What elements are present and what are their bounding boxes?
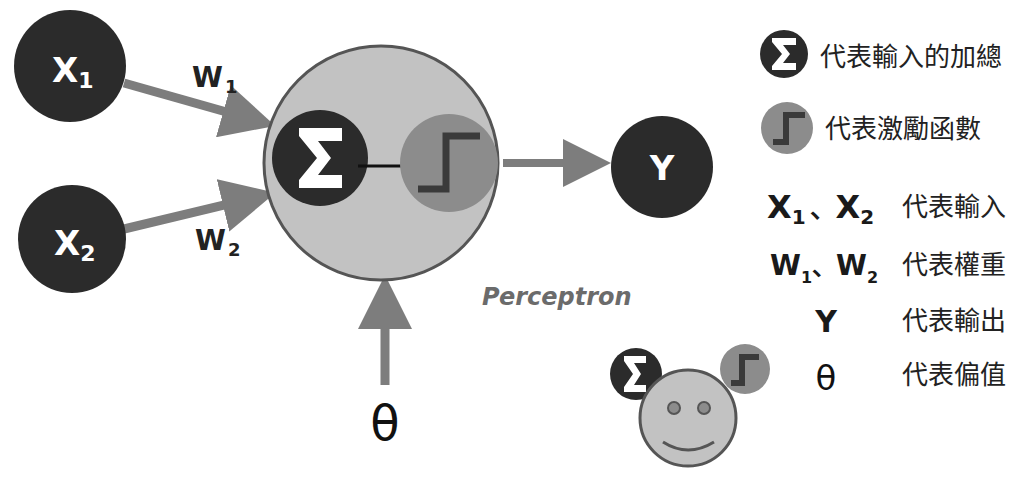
perceptron-caption: Perceptron xyxy=(482,283,632,311)
arrow-x1-to-neuron xyxy=(124,83,258,121)
svg-text:代表輸入: 代表輸入 xyxy=(902,192,1006,222)
svg-text:Y: Y xyxy=(814,304,838,339)
weight-label-w2: W2 xyxy=(195,224,240,260)
input-node-x2: X2 xyxy=(18,185,126,293)
svg-text:W1、W2: W1、W2 xyxy=(770,249,878,287)
legend-item-output: Y 代表輸出 xyxy=(814,304,1006,339)
activation-node xyxy=(400,114,498,212)
svg-text:代表激勵函數: 代表激勵函數 xyxy=(825,114,981,144)
svg-text:代表輸入的加總: 代表輸入的加總 xyxy=(820,42,1002,72)
svg-text:代表輸出: 代表輸出 xyxy=(902,306,1006,336)
legend-item-sum: 代表輸入的加總 xyxy=(760,30,1002,78)
legend-item-bias: θ 代表偏值 xyxy=(816,358,1006,398)
sum-node xyxy=(272,110,368,206)
svg-text:X1、X2: X1、X2 xyxy=(767,188,874,229)
svg-text:代表權重: 代表權重 xyxy=(902,250,1006,280)
output-node-y: Y xyxy=(611,116,713,218)
perceptron-diagram: X1 X2 W1 W2 Y θ Perceptron xyxy=(0,0,1009,493)
legend-item-inputs: X1、X2 代表輸入 xyxy=(767,188,1006,229)
svg-text:代表偏值: 代表偏值 xyxy=(902,360,1006,390)
legend-item-activation: 代表激勵函數 xyxy=(761,102,981,154)
arrow-x2-to-neuron xyxy=(124,197,258,229)
bias-label: θ xyxy=(370,395,399,451)
legend: 代表輸入的加總 代表激勵函數 X1、X2 代表輸入 W1、W2 代表權重 Y 代… xyxy=(760,30,1006,398)
input-node-x1: X1 xyxy=(14,10,126,122)
svg-text:θ: θ xyxy=(816,358,837,398)
legend-item-weights: W1、W2 代表權重 xyxy=(770,249,1006,287)
smiley-face-icon xyxy=(610,344,770,466)
neuron xyxy=(264,46,498,280)
weight-label-w1: W1 xyxy=(192,61,237,97)
svg-text:Y: Y xyxy=(649,148,675,188)
